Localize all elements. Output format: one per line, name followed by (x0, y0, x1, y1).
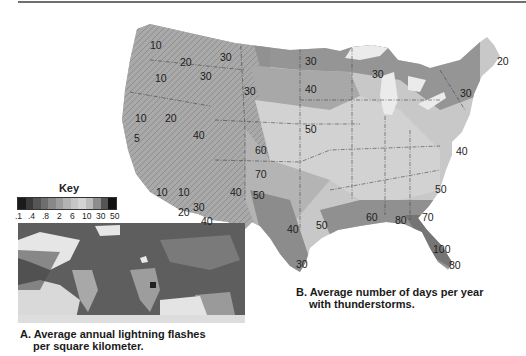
contour-label: 30 (193, 202, 205, 213)
contour-label: 70 (255, 169, 267, 180)
key-swatch (48, 198, 56, 209)
key-swatch (18, 198, 26, 209)
contour-label: 80 (449, 260, 461, 271)
caption-b-line1: B. Average number of days per year (296, 286, 483, 298)
contour-label: 5 (134, 133, 140, 144)
contour-label: 20 (178, 207, 190, 218)
caption-a-line2: per square kilometer. (20, 340, 206, 352)
key-tick: 30 (96, 211, 105, 221)
contour-label: 30 (200, 71, 212, 82)
contour-label: 40 (287, 224, 299, 235)
key-tick: 6 (70, 211, 75, 221)
key-tick: .8 (42, 211, 49, 221)
key-color-bar (17, 197, 117, 210)
contour-label: 40 (456, 146, 468, 157)
key-tick: .1 (15, 211, 22, 221)
contour-label: 60 (366, 212, 378, 223)
key-swatch (108, 198, 116, 209)
contour-label: 40 (193, 130, 205, 141)
contour-label: 10 (156, 187, 168, 198)
contour-label: 10 (155, 73, 167, 84)
key-tick: 50 (110, 211, 119, 221)
key-title: Key (20, 182, 118, 194)
contour-label: 50 (435, 184, 447, 195)
key-tick: 2 (57, 211, 62, 221)
contour-label: 30 (296, 259, 308, 270)
key-swatch (71, 198, 79, 209)
key-ticks: .1 .4 .8 2 6 10 30 50 (14, 211, 118, 221)
caption-b-line2: with thunderstorms. (296, 298, 483, 310)
key-swatch (78, 198, 86, 209)
contour-label: 10 (135, 113, 147, 124)
contour-label: 20 (165, 113, 177, 124)
caption-panel-b: B. Average number of days per year with … (296, 286, 483, 310)
contour-label: 50 (316, 220, 328, 231)
key-swatch (63, 198, 71, 209)
contour-label: 40 (230, 187, 242, 198)
key-swatch (56, 198, 64, 209)
contour-label: 20 (180, 57, 192, 68)
contour-label: 30 (460, 88, 472, 99)
caption-panel-a: A. Average annual lightning flashes per … (20, 328, 206, 352)
contour-label: 30 (372, 69, 384, 80)
contour-label: 10 (150, 40, 162, 51)
key-swatch (86, 198, 94, 209)
key-swatch (101, 198, 109, 209)
contour-label: 100 (433, 244, 451, 255)
contour-label: 30 (220, 52, 232, 63)
contour-label: 10 (178, 187, 190, 198)
key-swatch (33, 198, 41, 209)
contour-label: 50 (253, 190, 265, 201)
lightning-key: Key .1 .4 .8 2 6 10 30 50 (14, 182, 118, 221)
key-tick: 10 (82, 211, 91, 221)
contour-label: 60 (255, 145, 267, 156)
contour-label: 70 (422, 212, 434, 223)
contour-label: 20 (497, 56, 509, 67)
key-swatch (26, 198, 34, 209)
contour-label: 80 (395, 215, 407, 226)
contour-label: 40 (305, 84, 317, 95)
contour-label: 30 (244, 86, 256, 97)
key-tick: .4 (28, 211, 35, 221)
key-swatch (41, 198, 49, 209)
world-lightning-inset (18, 223, 245, 323)
contour-label: 40 (201, 216, 213, 227)
caption-a-line1: A. Average annual lightning flashes (20, 328, 206, 340)
key-swatch (93, 198, 101, 209)
contour-label: 30 (305, 56, 317, 67)
contour-label: 50 (305, 124, 317, 135)
